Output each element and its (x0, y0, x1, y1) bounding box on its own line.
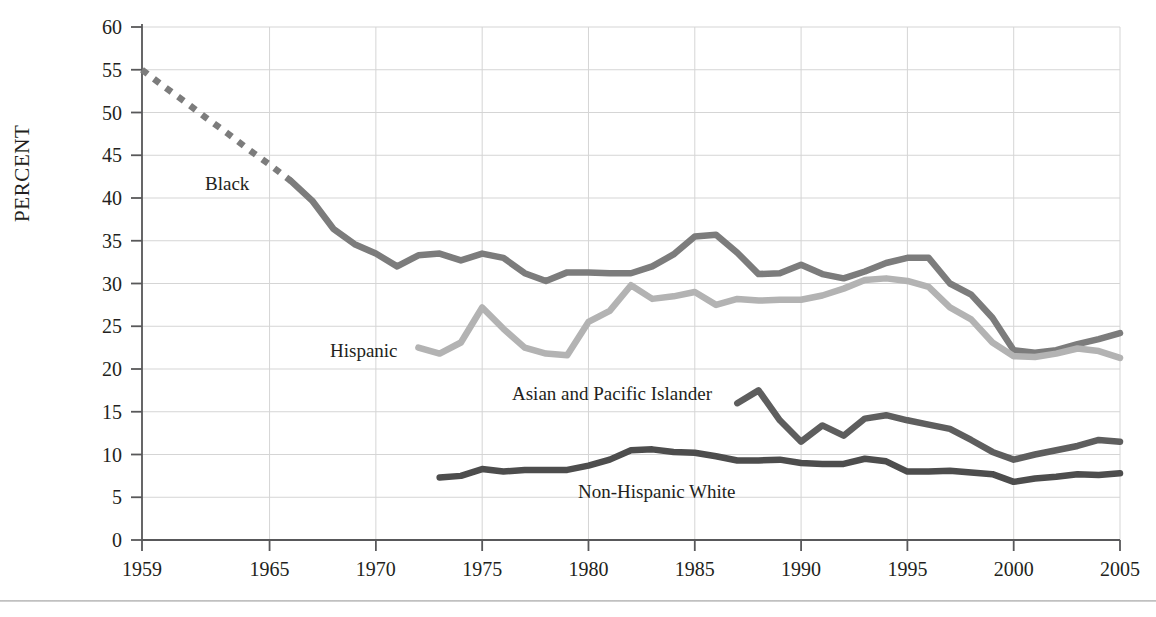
x-tick-label: 1980 (568, 558, 608, 580)
y-tick-label: 30 (102, 273, 122, 295)
series-label-white: Non-Hispanic White (578, 481, 735, 502)
x-axis-ticks: 1959196519701975198019851990199520002005 (122, 540, 1140, 580)
y-tick-label: 40 (102, 187, 122, 209)
x-tick-label: 2000 (994, 558, 1034, 580)
y-tick-label: 55 (102, 59, 122, 81)
x-tick-label: 1959 (122, 558, 162, 580)
y-tick-label: 10 (102, 444, 122, 466)
y-axis-ticks: 051015202530354045505560 (102, 16, 142, 551)
x-tick-label: 1990 (781, 558, 821, 580)
series-line-asian-and-pacific-islander (737, 390, 1120, 459)
y-tick-label: 60 (102, 16, 122, 38)
x-tick-label: 1970 (356, 558, 396, 580)
y-tick-label: 5 (112, 486, 122, 508)
y-tick-label: 35 (102, 230, 122, 252)
line-chart: 051015202530354045505560 195919651970197… (0, 0, 1156, 617)
plot-area: 051015202530354045505560 195919651970197… (0, 0, 1156, 617)
series-label-black: Black (205, 173, 250, 194)
series-line-black (142, 70, 291, 181)
data-series (142, 70, 1120, 482)
bottom-divider (0, 600, 1156, 602)
x-tick-label: 1975 (462, 558, 502, 580)
y-tick-label: 0 (112, 529, 122, 551)
series-label-asian: Asian and Pacific Islander (512, 383, 713, 404)
y-tick-label: 50 (102, 102, 122, 124)
y-tick-label: 20 (102, 358, 122, 380)
x-tick-label: 1965 (250, 558, 290, 580)
x-tick-label: 2005 (1100, 558, 1140, 580)
chart-page: PERCENT 051015202530354045505560 1959196… (0, 0, 1156, 617)
x-tick-label: 1985 (675, 558, 715, 580)
series-line-black (291, 181, 1120, 353)
x-tick-label: 1995 (887, 558, 927, 580)
y-tick-label: 15 (102, 401, 122, 423)
y-tick-label: 25 (102, 315, 122, 337)
y-tick-label: 45 (102, 144, 122, 166)
series-label-hispanic: Hispanic (330, 340, 398, 361)
